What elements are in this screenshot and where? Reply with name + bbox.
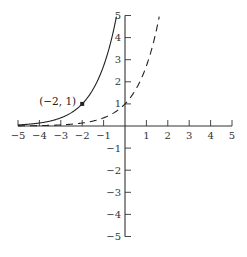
y-tick-label: 5	[115, 10, 121, 21]
chart: −5−4−3−2−11234554321−1−2−3−4−5 (−2, 1)	[0, 0, 247, 257]
x-tick-label: 2	[165, 130, 171, 141]
point-marker	[80, 102, 84, 106]
x-tick-label: −1	[96, 130, 111, 141]
y-tick-label: −1	[106, 143, 121, 154]
y-tick-label: 4	[115, 32, 121, 43]
axes	[18, 16, 232, 237]
y-tick-label: 3	[115, 54, 121, 65]
y-tick-label: −2	[106, 165, 121, 176]
x-tick-label: −5	[11, 130, 26, 141]
x-tick-label: 1	[143, 130, 149, 141]
curves	[18, 17, 159, 126]
dashed-curve	[18, 17, 159, 126]
point-label: (−2, 1)	[39, 95, 76, 107]
solid-curve	[18, 17, 116, 125]
x-tick-label: −2	[75, 130, 90, 141]
x-tick-label: 3	[186, 130, 192, 141]
x-tick-label: −4	[32, 130, 47, 141]
y-tick-label: 2	[115, 76, 121, 87]
y-tick-label: −4	[106, 209, 121, 220]
x-tick-label: 4	[207, 130, 213, 141]
annotations: (−2, 1)	[39, 95, 84, 107]
x-tick-label: 5	[229, 130, 235, 141]
x-tick-label: −3	[53, 130, 68, 141]
y-tick-label: −3	[106, 187, 121, 198]
y-tick-label: −5	[106, 231, 121, 242]
y-tick-label: 1	[115, 98, 121, 109]
